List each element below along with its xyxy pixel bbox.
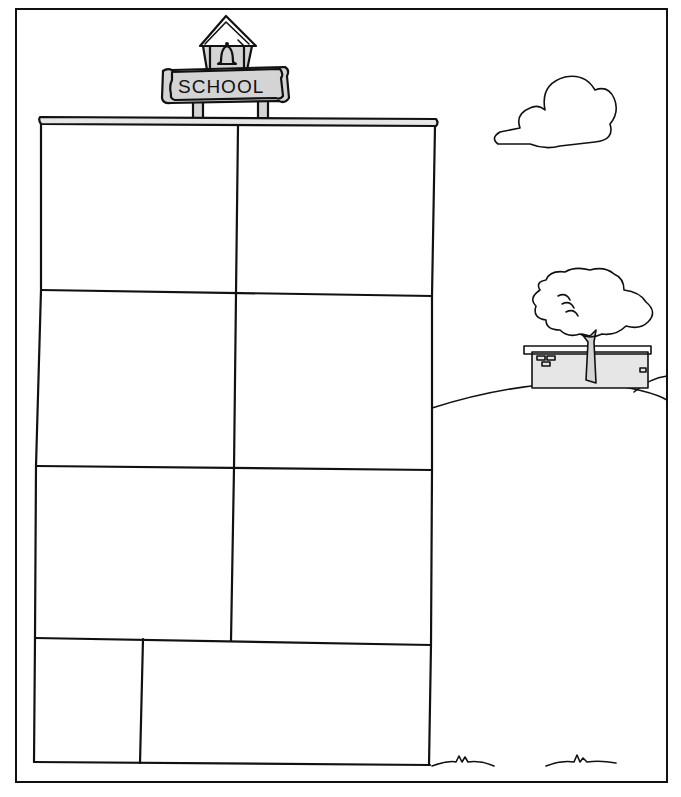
panel-6[interactable] xyxy=(235,471,430,643)
panel-3[interactable] xyxy=(40,293,234,465)
panel-5[interactable] xyxy=(38,468,232,637)
school-sign: SCHOOL xyxy=(162,67,289,103)
col-divider-1 xyxy=(236,126,238,294)
grass-tufts-icon xyxy=(432,755,616,766)
cloud-icon xyxy=(494,76,616,147)
worksheet-canvas: SCHOOL xyxy=(0,0,681,797)
col-divider-2 xyxy=(234,294,236,468)
panel-8[interactable] xyxy=(144,644,429,763)
panel-4[interactable] xyxy=(237,296,431,468)
bell-tower-icon xyxy=(200,16,256,70)
roof-strip xyxy=(39,117,437,126)
panel-2[interactable] xyxy=(239,128,432,294)
panel-7[interactable] xyxy=(37,641,141,761)
sign-label: SCHOOL xyxy=(178,76,264,97)
panel-1[interactable] xyxy=(43,126,236,292)
